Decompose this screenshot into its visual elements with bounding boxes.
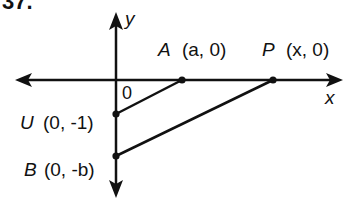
point-P xyxy=(269,76,276,83)
origin-label: 0 xyxy=(122,84,132,102)
point-U xyxy=(112,110,119,117)
label-P: P (x, 0) xyxy=(262,40,329,59)
y-axis xyxy=(109,12,123,198)
label-B-name: B xyxy=(24,159,37,180)
label-B: B (0, -b) xyxy=(24,160,95,179)
label-U-coords: (0, -1) xyxy=(43,112,94,133)
label-B-coords: (0, -b) xyxy=(44,159,95,180)
segment-BP xyxy=(116,80,273,156)
y-axis-label: y xyxy=(125,9,135,28)
label-P-coords: (x, 0) xyxy=(286,39,329,60)
coordinate-diagram: 37. y x 0 A (a, 0) P (x, 0) xyxy=(0,0,353,201)
label-P-name: P xyxy=(262,39,275,60)
point-B xyxy=(112,152,119,159)
point-A xyxy=(178,76,185,83)
label-U-name: U xyxy=(20,112,34,133)
x-axis-label: x xyxy=(325,88,335,107)
label-A-name: A xyxy=(158,39,171,60)
label-A-coords: (a, 0) xyxy=(182,39,226,60)
label-U: U (0, -1) xyxy=(20,113,94,132)
label-A: A (a, 0) xyxy=(158,40,226,59)
